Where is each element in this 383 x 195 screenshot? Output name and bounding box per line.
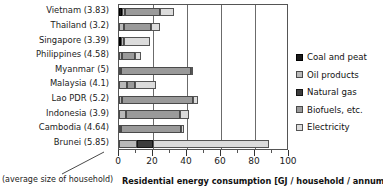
bar-row [119, 140, 287, 148]
bar-rows [119, 5, 287, 149]
bar-row [119, 67, 287, 75]
x-tick-label-100: 100 [273, 156, 303, 166]
y-axis-label-myanmar: Myanmar (5) [0, 65, 109, 74]
bar-segment-biofuels-etc [121, 67, 191, 75]
bar-segment-biofuels-etc [126, 110, 180, 118]
bar-segment-biofuels-etc [121, 125, 181, 133]
bar-segment-electricity [193, 96, 197, 104]
legend-swatch-icon [296, 124, 303, 131]
x-tick-minor-90 [271, 150, 272, 153]
stacked-bar [119, 52, 141, 60]
stacked-bar [119, 125, 184, 133]
legend-swatch-icon [296, 89, 303, 96]
y-axis-category-labels: Vietnam (3.83)Thailand (3.2)Singapore (3… [0, 4, 113, 150]
legend-item-biofuels-etc: Biofuels, etc. [296, 103, 363, 117]
y-axis-label-vietnam: Vietnam (3.83) [0, 6, 109, 15]
bar-segment-oil-products [119, 81, 127, 89]
bar-row [119, 96, 287, 104]
legend-label: Electricity [307, 122, 350, 132]
bar-segment-oil-products [119, 140, 137, 148]
bar-row [119, 81, 287, 89]
stacked-bar [119, 23, 160, 31]
bar-segment-electricity [135, 52, 140, 60]
bar-segment-electricity [151, 23, 160, 31]
y-axis-label-philippines: Philippines (4.58) [0, 50, 109, 59]
bar-segment-biofuels-etc [122, 96, 194, 104]
legend-item-electricity: Electricity [296, 120, 350, 134]
bar-row [119, 125, 287, 133]
bar-segment-natural-gas [137, 140, 152, 148]
y-axis-label-thailand: Thailand (3.2) [0, 21, 109, 30]
y-axis-label-indonesia: Indonesia (3.9) [0, 109, 109, 118]
bar-segment-electricity [135, 81, 156, 89]
legend-swatch-icon [296, 71, 303, 78]
residential-energy-chart: Vietnam (3.83)Thailand (3.2)Singapore (3… [0, 0, 383, 195]
y-axis-label-brunei: Brunei (5.85) [0, 138, 109, 147]
bar-segment-electricity [191, 67, 193, 75]
bar-row [119, 8, 287, 16]
x-axis-tick-labels: 020406080100 [100, 156, 330, 168]
x-tick-minor-50 [203, 150, 204, 153]
bar-segment-electricity [124, 37, 150, 45]
x-tick-label-40: 40 [171, 156, 201, 166]
legend-label: Biofuels, etc. [307, 105, 363, 115]
legend-label: Coal and peat [307, 52, 367, 62]
x-tick-minor-30 [169, 150, 170, 153]
bar-row [119, 23, 287, 31]
bar-row [119, 52, 287, 60]
legend-item-oil-products: Oil products [296, 68, 359, 82]
stacked-bar [119, 96, 198, 104]
stacked-bar [119, 37, 150, 45]
y-axis-label-cambodia: Cambodia (4.64) [0, 123, 109, 132]
x-axis-title: Residential energy consumption [GJ / hou… [122, 176, 382, 186]
legend-item-coal-and-peat: Coal and peat [296, 50, 367, 64]
y-axis-label-singapore: Singapore (3.39) [0, 36, 109, 45]
x-tick-label-60: 60 [205, 156, 235, 166]
stacked-bar [119, 110, 189, 118]
legend-swatch-icon [296, 54, 303, 61]
legend: Coal and peatOil productsNatural gasBiof… [296, 50, 382, 142]
bar-segment-electricity [180, 110, 189, 118]
stacked-bar [119, 67, 193, 75]
bar-segment-oil-products [119, 110, 126, 118]
x-tick-minor-70 [237, 150, 238, 153]
bar-segment-electricity [153, 140, 269, 148]
legend-label: Oil products [307, 70, 359, 80]
stacked-bar [119, 8, 174, 16]
bar-row [119, 37, 287, 45]
bar-segment-biofuels-etc [127, 81, 135, 89]
legend-label: Natural gas [307, 87, 357, 97]
stacked-bar [119, 81, 156, 89]
x-tick-minor-10 [135, 150, 136, 153]
bar-segment-electricity [181, 125, 184, 133]
stacked-bar [119, 140, 269, 148]
bar-row [119, 110, 287, 118]
y-axis-label-malaysia: Malaysia (4.1) [0, 79, 109, 88]
bar-segment-electricity [160, 8, 173, 16]
y-axis-label-lao: Lao PDR (5.2) [0, 94, 109, 103]
x-tick-label-0: 0 [103, 156, 133, 166]
x-tick-label-80: 80 [239, 156, 269, 166]
bar-segment-biofuels-etc [125, 8, 160, 16]
annotation-leader-line [60, 150, 106, 176]
bar-segment-biofuels-etc [124, 23, 152, 31]
plot-area [118, 4, 288, 150]
legend-swatch-icon [296, 106, 303, 113]
legend-item-natural-gas: Natural gas [296, 85, 357, 99]
bar-segment-biofuels-etc [122, 52, 135, 60]
household-size-annotation: (average size of household) [2, 175, 118, 184]
x-tick-label-20: 20 [137, 156, 167, 166]
